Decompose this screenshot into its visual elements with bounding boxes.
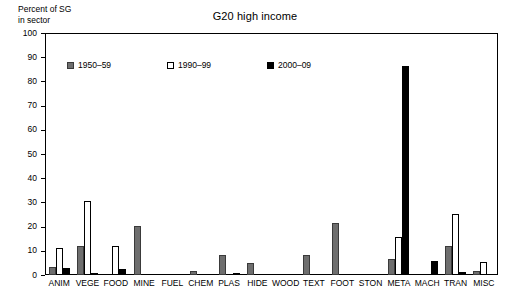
legend-label: 2000–09 [278,60,311,70]
bar [84,201,91,275]
x-tick-label: META [385,278,413,288]
x-tick-label: TRAN [441,278,469,288]
x-tick-label: TEXT [300,278,328,288]
bar [219,255,226,275]
x-tick-label: HIDE [243,278,271,288]
bar-group [388,33,409,275]
x-tick-label: MACH [413,278,441,288]
chart-root: Percent of SG in sector G20 high income … [0,0,510,301]
bar [459,272,466,275]
bar [119,269,126,275]
chart-title: G20 high income [0,10,510,22]
bar [431,261,438,275]
bar [445,246,452,275]
y-tick-label: 10 [28,245,37,255]
bar [112,246,119,275]
bar-group [360,33,381,275]
y-tick-label: 80 [28,76,37,86]
bar-group [219,33,240,275]
bar-group [473,33,494,275]
x-tick-label: STON [356,278,384,288]
x-tick-label: MISC [470,278,498,288]
bar [56,248,63,275]
bar [473,271,480,275]
bar-group [134,33,155,275]
bar [91,273,98,275]
legend-item[interactable]: 1990–99 [167,60,211,70]
bar [190,271,197,275]
bar [77,246,84,275]
bars-area: 1950–591990–992000–09 [45,33,498,275]
y-tick-mark [41,275,45,276]
y-tick-label: 90 [28,52,37,62]
bar [49,267,56,275]
x-axis: ANIMVEGEFOODMINEFUELCHEMPLASHIDEWOODTEXT… [45,278,498,294]
legend-swatch-icon [167,62,174,69]
y-tick-label: 60 [28,124,37,134]
bar-group [445,33,466,275]
x-tick-label: PLAS [215,278,243,288]
y-tick-label: 50 [28,149,37,159]
legend-swatch-icon [267,62,274,69]
legend-label: 1950–59 [78,60,111,70]
bar-group [332,33,353,275]
y-tick-label: 40 [28,173,37,183]
bar [303,255,310,275]
bar-group [417,33,438,275]
x-tick-label: WOOD [272,278,300,288]
bar [452,214,459,275]
legend-item[interactable]: 1950–59 [67,60,111,70]
bar [480,262,487,275]
bar [388,259,395,275]
legend-label: 1990–99 [178,60,211,70]
y-tick-label: 30 [28,197,37,207]
y-tick-label: 20 [28,221,37,231]
legend-swatch-icon [67,62,74,69]
x-tick-label: ANIM [45,278,73,288]
x-tick-label: CHEM [187,278,215,288]
x-tick-label: FOOT [328,278,356,288]
bar [395,237,402,275]
x-tick-label: VEGE [73,278,101,288]
bar [233,273,240,275]
bar [63,268,70,275]
bar [332,223,339,276]
y-tick-label: 0 [32,270,37,280]
bar-group [247,33,268,275]
x-tick-label: FOOD [102,278,130,288]
y-tick-label: 70 [28,100,37,110]
bar [134,226,141,275]
bar [247,263,254,275]
x-tick-label: FUEL [158,278,186,288]
legend-item[interactable]: 2000–09 [267,60,311,70]
y-tick-label: 100 [23,28,37,38]
bar [402,66,409,275]
x-tick-label: MINE [130,278,158,288]
